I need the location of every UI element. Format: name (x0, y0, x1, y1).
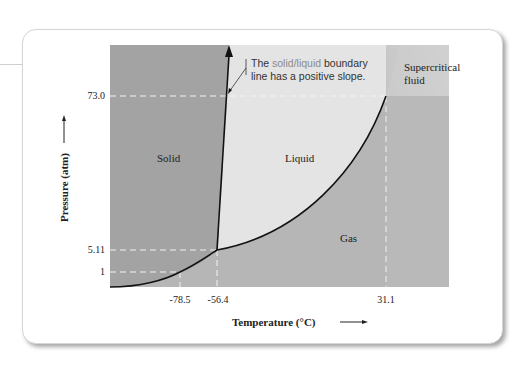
region-label-fluid: fluid (404, 74, 425, 86)
y-tick-1: 1 (100, 266, 105, 277)
region-label-liquid: Liquid (285, 152, 315, 164)
region-label-gas: Gas (340, 232, 357, 244)
y-tick-5-11: 5.11 (88, 244, 105, 255)
y-axis-label: Pressure (atm) (58, 153, 71, 222)
x-tick-31-1: 31.1 (377, 294, 395, 305)
annotation-line2: line has a positive slope. (251, 70, 365, 82)
annotation-line1: The solid/liquid boundary (251, 57, 369, 69)
solid-region (110, 45, 229, 287)
x-axis-label: Temperature (°C) (232, 316, 316, 329)
arrow-right-icon (362, 320, 368, 324)
x-tick-neg78-5: -78.5 (170, 294, 191, 305)
region-label-solid: Solid (157, 152, 181, 164)
phase-diagram: The solid/liquid boundary line has a pos… (0, 0, 529, 369)
y-tick-73: 73.0 (88, 90, 106, 101)
x-tick-neg56-4: -56.4 (208, 294, 229, 305)
region-label-supercritical: Supercritical (404, 61, 460, 73)
arrow-up-axis-icon (62, 115, 66, 121)
